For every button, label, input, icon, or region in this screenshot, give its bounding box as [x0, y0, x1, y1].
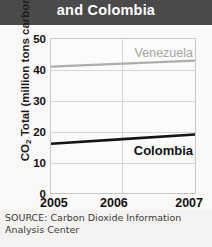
y-tick-label: 40 [20, 65, 46, 77]
series-label-venezuela: Venezuela [135, 46, 193, 60]
y-axis-ticks: 50 40 30 20 10 0 [18, 25, 46, 210]
x-tick-label: 2006 [100, 196, 128, 210]
y-tick-label: 20 [20, 127, 46, 139]
x-tick-label: 2007 [175, 196, 203, 210]
series-label-colombia: Colombia [134, 143, 193, 158]
page-title: and Colombia [0, 2, 212, 18]
plot-area: Venezuela Colombia [50, 38, 196, 194]
chart-title-bar: and Colombia [0, 0, 212, 25]
y-tick-label: 50 [20, 34, 46, 46]
source-note: SOURCE: Carbon Dioxide Information Analy… [5, 212, 210, 236]
series-lines [51, 39, 195, 193]
y-tick-label: 10 [20, 158, 46, 170]
source-line-1: SOURCE: Carbon Dioxide Information [5, 212, 210, 224]
x-tick-label: 2005 [40, 196, 68, 210]
x-axis-ticks: 2005 2006 2007 [50, 196, 196, 212]
chart-container: CO2 Total (million tons carbon) 50 40 30… [0, 25, 212, 210]
line-venezuela [51, 61, 195, 67]
source-line-2: Analysis Center [5, 224, 210, 236]
y-tick-label: 30 [20, 96, 46, 108]
